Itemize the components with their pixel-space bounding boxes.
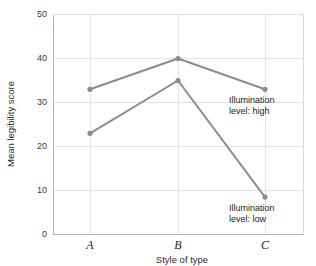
data-point-low-c: [262, 195, 267, 200]
y-tick-30: 30: [37, 97, 47, 107]
y-tick-40: 40: [37, 53, 47, 63]
y-tick-0: 0: [42, 229, 47, 239]
x-tick-b: B: [174, 238, 182, 252]
x-axis-title: Style of type: [156, 254, 208, 265]
x-tick-a: A: [85, 238, 94, 252]
illumination-high-line1: Illumination: [229, 95, 275, 105]
data-point-high-b: [175, 56, 180, 61]
y-tick-labels: 50 40 30 20 10 0: [37, 9, 47, 239]
data-point-high-c: [262, 87, 267, 92]
series-line-high: [90, 59, 265, 90]
x-tick-labels: A B C: [85, 238, 270, 252]
y-tick-50: 50: [37, 9, 47, 19]
data-point-low-a: [87, 131, 92, 136]
line-chart: 50 40 30 20 10 0 A B C Style of type Mea…: [0, 0, 316, 266]
y-axis-title: Mean legibility score: [5, 81, 16, 167]
series-illumination-high: [87, 56, 267, 92]
illumination-low-line1: Illumination: [229, 203, 275, 213]
chart-canvas: 50 40 30 20 10 0 A B C Style of type Mea…: [0, 0, 316, 266]
y-tick-10: 10: [37, 185, 47, 195]
gridlines: [54, 15, 304, 235]
data-point-low-b: [175, 78, 180, 83]
illumination-high-line2: level: high: [229, 106, 270, 116]
illumination-low-annotation: Illumination level: low: [229, 203, 275, 224]
y-tick-20: 20: [37, 141, 47, 151]
illumination-low-line2: level: low: [229, 214, 267, 224]
x-tick-c: C: [261, 238, 270, 252]
data-point-high-a: [87, 87, 92, 92]
illumination-high-annotation: Illumination level: high: [229, 95, 275, 116]
